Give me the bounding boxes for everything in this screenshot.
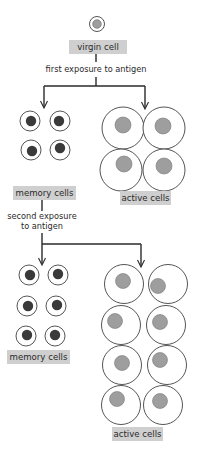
memory-cell-icon — [48, 265, 68, 285]
connector-second-exposure — [42, 200, 141, 266]
active-cell-icon — [148, 346, 187, 385]
first-exposure-caption: first exposure to antigen — [30, 64, 162, 75]
connector-first-exposure — [44, 53, 145, 108]
active-cell-icon — [103, 346, 142, 385]
memory-cell-icon — [45, 326, 65, 346]
virgin-cell-label: virgin cell — [69, 40, 127, 54]
memory-cells-label-2: memory cells — [7, 350, 70, 364]
memory-cells-group-2 — [16, 265, 68, 346]
active-cell-icon — [149, 265, 188, 304]
memory-cells-label-1: memory cells — [13, 186, 76, 200]
active-cell-icon — [144, 386, 183, 425]
memory-cell-icon — [21, 140, 41, 160]
active-cells-group-2 — [102, 265, 188, 425]
active-cells-group-1 — [100, 107, 185, 191]
active-cell-icon — [102, 386, 141, 425]
active-cell-icon — [102, 306, 141, 345]
active-cell-icon — [143, 107, 185, 149]
memory-cell-icon — [46, 296, 66, 316]
memory-cell-icon — [20, 111, 40, 131]
second-exposure-caption-line2: to antigen — [4, 221, 80, 232]
active-cells-label-2: active cells — [112, 427, 163, 441]
active-cells-label-1: active cells — [120, 191, 171, 205]
active-cell-icon — [102, 107, 144, 149]
memory-cell-icon — [16, 326, 36, 346]
memory-cell-icon — [50, 140, 70, 160]
memory-cell-icon — [50, 111, 70, 131]
memory-cells-group-1 — [20, 111, 70, 160]
memory-cell-icon — [17, 296, 37, 316]
memory-cell-icon — [19, 265, 39, 285]
active-cell-icon — [105, 265, 144, 304]
virgin-cell-icon — [90, 17, 105, 32]
active-cell-icon — [147, 306, 186, 345]
active-cell-icon — [100, 149, 142, 191]
active-cell-icon — [143, 149, 185, 191]
